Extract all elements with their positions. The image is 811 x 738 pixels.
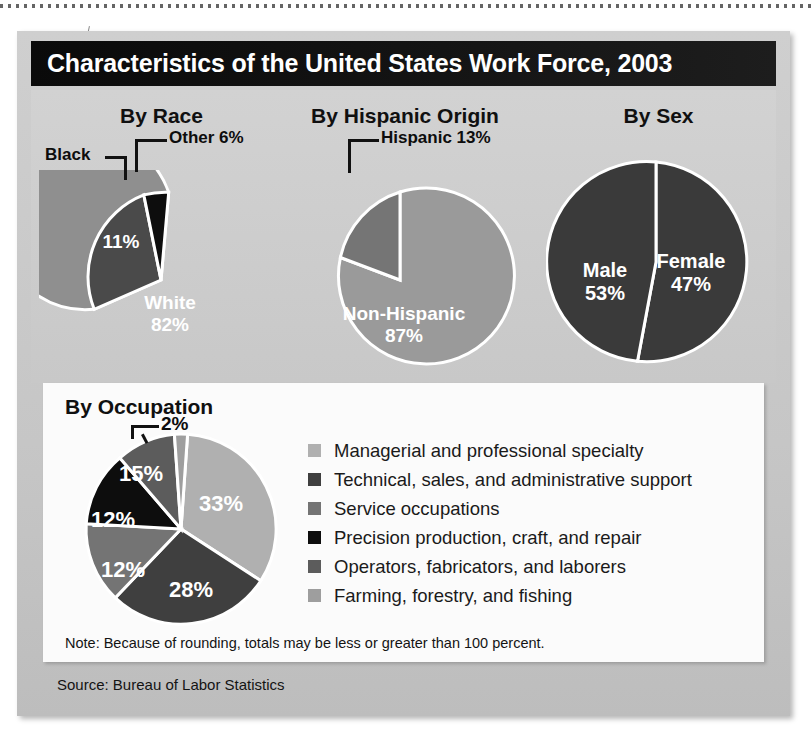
black-callout-label: Black xyxy=(45,145,90,165)
legend-item[interactable]: Service occupations xyxy=(308,494,692,523)
legend-label-operators: Operators, fabricators, and laborers xyxy=(334,556,626,578)
rounding-note: Note: Because of rounding, totals may be… xyxy=(65,635,545,651)
label-non-hispanic: Non-Hispanic xyxy=(343,303,466,324)
legend-swatch-service xyxy=(308,502,321,515)
legend-item[interactable]: Managerial and professional specialty xyxy=(308,436,692,465)
other-leader-horizontal xyxy=(135,139,167,142)
page-title: Characteristics of the United States Wor… xyxy=(31,49,672,78)
hispanic-callout-label: Hispanic 13% xyxy=(381,128,491,148)
pie-by-occupation-svg: 33% 28% 12% 12% 15% xyxy=(69,429,294,629)
label-black-pct: 11% xyxy=(103,231,140,252)
pie-by-hispanic-svg: Non-Hispanic 87% xyxy=(276,170,534,370)
label-managerial-pct: 33% xyxy=(199,491,243,516)
label-male-pct: 53% xyxy=(585,282,625,304)
two-percent-leader-horizontal xyxy=(131,425,159,428)
two-percent-callout-label: 2% xyxy=(161,413,188,435)
pie-by-sex: Female 47% Male 53% xyxy=(546,156,771,371)
legend-item[interactable]: Operators, fabricators, and laborers xyxy=(308,552,692,581)
source-line: Source: Bureau of Labor Statistics xyxy=(57,676,285,693)
legend-swatch-farming xyxy=(308,589,321,602)
pie-by-hispanic-origin: Non-Hispanic 87% xyxy=(276,170,534,370)
legend-swatch-technical xyxy=(308,473,321,486)
legend-item[interactable]: Precision production, craft, and repair xyxy=(308,523,692,552)
legend-label-service: Service occupations xyxy=(334,498,500,520)
title-bar: Characteristics of the United States Wor… xyxy=(31,41,776,86)
chart-by-hispanic-origin: By Hispanic Origin Non-Hispanic 87% Hisp… xyxy=(276,90,534,370)
legend-label-managerial: Managerial and professional specialty xyxy=(334,440,644,462)
pie-by-occupation: 33% 28% 12% 12% 15% 2% xyxy=(69,429,294,629)
top-charts-band: By Race White 82% 11% xyxy=(31,90,776,383)
other-callout-label: Other 6% xyxy=(169,128,244,148)
chart-title-by-race: By Race xyxy=(39,90,284,128)
infographic-panel: Characteristics of the United States Wor… xyxy=(17,31,790,716)
label-technical-pct: 28% xyxy=(169,577,213,602)
legend-item[interactable]: Technical, sales, and administrative sup… xyxy=(308,465,692,494)
black-leader-vertical xyxy=(124,156,127,180)
occupation-legend: Managerial and professional specialty Te… xyxy=(308,436,692,610)
legend-label-precision: Precision production, craft, and repair xyxy=(334,527,641,549)
label-female-pct: 47% xyxy=(671,273,711,295)
legend-swatch-precision xyxy=(308,531,321,544)
legend-label-technical: Technical, sales, and administrative sup… xyxy=(334,469,692,491)
label-white: White xyxy=(144,292,196,313)
label-operators-pct: 15% xyxy=(119,461,163,486)
chart-by-race: By Race White 82% 11% xyxy=(39,90,284,370)
legend-swatch-managerial xyxy=(308,444,321,457)
chart-title-by-occupation: By Occupation xyxy=(65,395,213,419)
label-male: Male xyxy=(583,259,627,281)
two-percent-leader-diagonal xyxy=(131,425,134,439)
label-precision-pct: 12% xyxy=(91,507,135,532)
label-non-hispanic-pct: 87% xyxy=(385,325,423,346)
chart-by-sex: By Sex Female 47% Male 53% xyxy=(546,90,771,371)
pie-by-race: White 82% 11% xyxy=(39,170,284,370)
label-female: Female xyxy=(657,250,726,272)
occupation-card: By Occupation 33% xyxy=(43,383,764,662)
hispanic-leader-vertical xyxy=(348,139,351,173)
label-white-pct: 82% xyxy=(151,314,189,335)
legend-item[interactable]: Farming, forestry, and fishing xyxy=(308,581,692,610)
other-leader-vertical xyxy=(135,139,138,172)
scan-artifact-dotted-line xyxy=(0,4,811,8)
label-service-pct: 12% xyxy=(101,557,145,582)
pie-by-sex-svg: Female 47% Male 53% xyxy=(546,156,771,371)
hispanic-leader-horizontal xyxy=(348,139,379,142)
chart-title-by-sex: By Sex xyxy=(546,90,771,128)
legend-swatch-operators xyxy=(308,560,321,573)
chart-title-by-hispanic-origin: By Hispanic Origin xyxy=(276,90,534,128)
pie-by-race-svg: White 82% 11% xyxy=(39,170,284,370)
legend-label-farming: Farming, forestry, and fishing xyxy=(334,585,572,607)
